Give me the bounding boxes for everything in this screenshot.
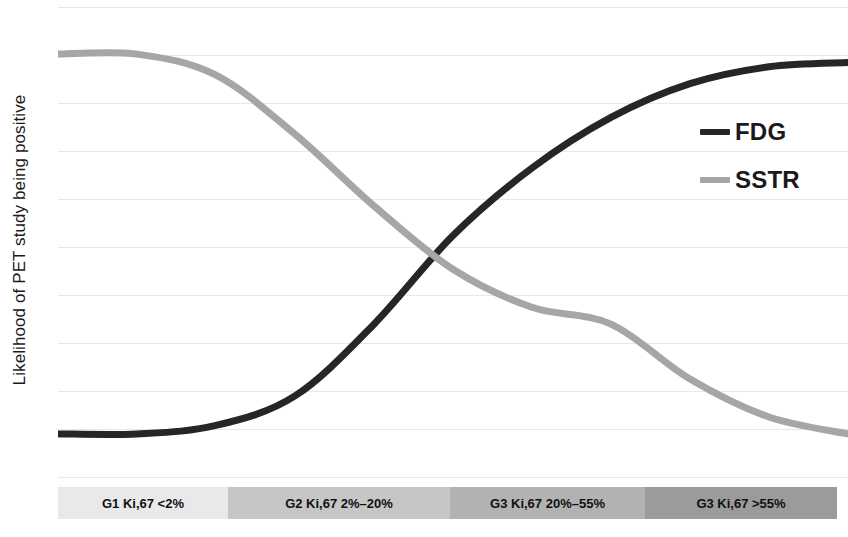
chart-root: Likelihood of PET study being positive F… — [0, 0, 848, 537]
legend-item-sstr[interactable]: SSTR — [700, 156, 840, 204]
category-cell[interactable]: G3 Ki,67 >55% — [645, 487, 837, 519]
category-label: G1 Ki,67 <2% — [102, 496, 184, 511]
legend: FDGSSTR — [700, 108, 840, 204]
category-label: G3 Ki,67 >55% — [696, 496, 785, 511]
legend-swatch-icon — [700, 177, 730, 183]
series-svg — [58, 0, 848, 480]
plot-area — [58, 0, 848, 480]
category-cell[interactable]: G1 Ki,67 <2% — [58, 487, 228, 519]
legend-label: FDG — [735, 118, 786, 146]
legend-label: SSTR — [735, 166, 800, 194]
curve-layer — [58, 0, 848, 480]
legend-item-fdg[interactable]: FDG — [700, 108, 840, 156]
category-label: G3 Ki,67 20%–55% — [490, 496, 605, 511]
category-cell[interactable]: G2 Ki,67 2%–20% — [228, 487, 450, 519]
y-axis-title: Likelihood of PET study being positive — [0, 0, 40, 480]
category-cell[interactable]: G3 Ki,67 20%–55% — [450, 487, 645, 519]
category-bar: G1 Ki,67 <2%G2 Ki,67 2%–20%G3 Ki,67 20%–… — [58, 487, 837, 519]
y-axis-title-label: Likelihood of PET study being positive — [10, 95, 30, 386]
legend-swatch-icon — [700, 129, 730, 135]
category-label: G2 Ki,67 2%–20% — [285, 496, 393, 511]
